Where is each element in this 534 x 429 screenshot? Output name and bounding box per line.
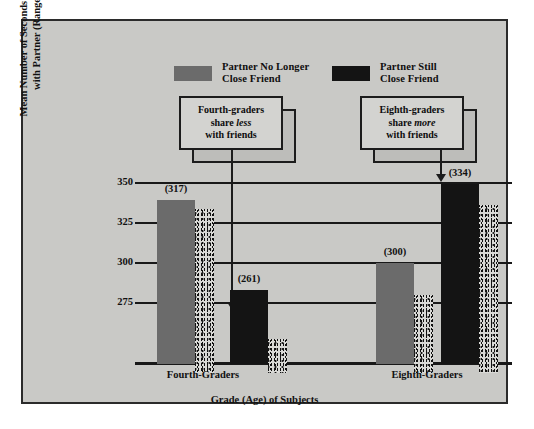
y-axis-tick-300: 300 bbox=[99, 256, 133, 267]
legend-swatch-gray-icon bbox=[174, 66, 212, 81]
bar-fill bbox=[441, 184, 479, 364]
bar-shadow-texture bbox=[414, 295, 433, 373]
legend-label-line2: Close Friend bbox=[380, 73, 439, 84]
annotation-line-2-emphasis: more bbox=[414, 117, 435, 128]
y-axis-tick-275: 275 bbox=[99, 296, 133, 307]
bar-shadow-texture bbox=[479, 205, 498, 373]
bar-fill bbox=[157, 200, 195, 364]
legend-item-partner-no-longer-close-friend: Partner No LongerClose Friend bbox=[174, 61, 309, 85]
bar-value-label: (300) bbox=[384, 246, 407, 257]
bar-value-label: (334) bbox=[449, 167, 472, 178]
annotation-line-2-emphasis: less bbox=[236, 117, 251, 128]
legend-item-partner-still-close-friend: Partner StillClose Friend bbox=[332, 61, 439, 85]
bar-fill bbox=[376, 263, 414, 364]
y-axis-tick-325: 325 bbox=[99, 216, 133, 227]
legend-swatch-black-icon bbox=[332, 66, 370, 81]
legend-label-line1: Partner Still bbox=[380, 61, 437, 72]
y-axis-tick-350: 350 bbox=[99, 176, 133, 187]
annotation-line-1: Eighth-graders bbox=[380, 104, 445, 115]
bar-value-label: (261) bbox=[238, 273, 261, 284]
annotation-line-2-prefix: share bbox=[389, 117, 415, 128]
bar-fill bbox=[230, 290, 268, 364]
y-axis-title-line1: Mean Number of Seconds Subjects Share bbox=[18, 0, 29, 116]
bar-eighth-graders-still-close-friend: (334) bbox=[441, 184, 479, 364]
legend-label-partner-no-longer: Partner No LongerClose Friend bbox=[222, 61, 309, 85]
bar-shadow-texture bbox=[195, 209, 214, 373]
legend-label-line1: Partner No Longer bbox=[222, 61, 309, 72]
bar-fourth-graders-no-longer-close-friend: (317) bbox=[157, 200, 195, 364]
annotation-line-3: with friends bbox=[205, 129, 256, 140]
x-axis-tick-fourth-graders: Fourth-Graders bbox=[143, 369, 263, 380]
annotation-line-3: with friends bbox=[386, 129, 437, 140]
chart-panel: Partner No LongerClose Friend Partner St… bbox=[21, 19, 508, 404]
y-axis-title-line2: with Partner (Range = 0–360) bbox=[31, 0, 42, 90]
x-axis-title: Grade (Age) of Subjects bbox=[23, 394, 506, 405]
legend-label-line2: Close Friend bbox=[222, 73, 281, 84]
chart-figure: Partner No LongerClose Friend Partner St… bbox=[0, 0, 534, 429]
y-axis-title: Mean Number of Seconds Subjects Share wi… bbox=[17, 0, 43, 139]
annotation-box-text: Fourth-graders share less with friends bbox=[179, 96, 283, 150]
annotation-line-2-prefix: share bbox=[211, 117, 237, 128]
legend-label-partner-still: Partner StillClose Friend bbox=[380, 61, 439, 85]
bar-value-label: (317) bbox=[165, 183, 188, 194]
annotation-box-text: Eighth-graders share more with friends bbox=[360, 96, 464, 150]
bar-fourth-graders-still-close-friend: (261) bbox=[230, 290, 268, 364]
x-axis-tick-eighth-graders: Eighth-Graders bbox=[367, 369, 487, 380]
bar-eighth-graders-no-longer-close-friend: (300) bbox=[376, 263, 414, 364]
bar-shadow-texture bbox=[268, 339, 287, 373]
annotation-line-1: Fourth-graders bbox=[198, 104, 264, 115]
plot-area: (317) (261) (300) (334) bbox=[135, 171, 512, 364]
